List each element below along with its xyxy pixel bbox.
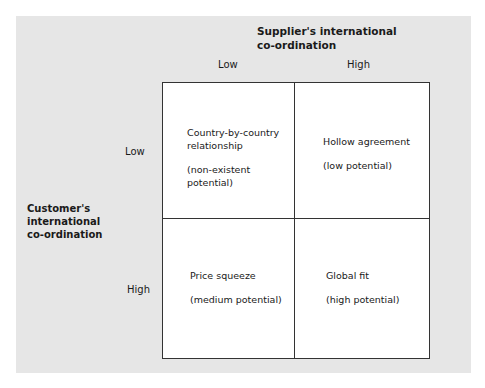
- y-axis-title-line-3: co-ordination: [27, 228, 102, 241]
- cell-high-low: Price squeeze (medium potential): [190, 269, 282, 306]
- cell-title: relationship: [187, 139, 279, 152]
- cell-note: (non-existent: [187, 163, 279, 176]
- x-axis-level-high: High: [347, 59, 370, 70]
- cell-note: potential): [187, 176, 279, 189]
- y-axis-level-high: High: [127, 284, 150, 295]
- x-axis-title-line-2: co-ordination: [257, 38, 397, 52]
- y-axis-level-low: Low: [125, 146, 145, 157]
- cell-note: (medium potential): [190, 293, 282, 306]
- x-axis-title-line-1: Supplier's international: [257, 24, 397, 38]
- cell-title: Hollow agreement: [323, 135, 410, 148]
- cell-note: (high potential): [326, 293, 399, 306]
- y-axis-title-line-1: Customer's: [27, 202, 102, 215]
- vertical-divider: [294, 83, 295, 358]
- y-axis-title: Customer's international co-ordination: [27, 202, 102, 241]
- x-axis-level-low: Low: [218, 59, 238, 70]
- cell-title: Country-by-country: [187, 126, 279, 139]
- cell-title: Global fit: [326, 269, 399, 282]
- cell-low-low: Country-by-country relationship (non-exi…: [187, 126, 279, 189]
- cell-high-high: Global fit (high potential): [326, 269, 399, 306]
- cell-low-high: Hollow agreement (low potential): [323, 135, 410, 172]
- horizontal-divider: [163, 218, 429, 219]
- matrix-grid: Country-by-country relationship (non-exi…: [162, 82, 430, 359]
- cell-note: (low potential): [323, 159, 410, 172]
- cell-title: Price squeeze: [190, 269, 282, 282]
- x-axis-title: Supplier's international co-ordination: [257, 24, 397, 52]
- y-axis-title-line-2: international: [27, 215, 102, 228]
